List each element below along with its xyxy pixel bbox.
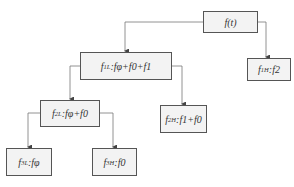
arrow-root-to-f1H	[257, 22, 266, 57]
arrow-f1L-to-f2H	[172, 66, 182, 104]
node-f3H-sub: 3H	[106, 159, 114, 166]
node-f1L-sub: 1L	[104, 63, 111, 70]
node-root: f(t)	[203, 11, 258, 33]
node-f3L-rest: :fφ	[28, 157, 40, 168]
arrow-f2L-to-f3H	[100, 113, 113, 147]
node-f1H-sub: 1H	[261, 66, 269, 73]
node-f3L-sub: 3L	[21, 159, 28, 166]
figure-caption	[90, 181, 210, 187]
node-f2L-rest: :fφ+f0	[62, 108, 88, 119]
node-root-label: f(t)	[224, 17, 236, 28]
node-f2L: f2L:fφ+f0	[40, 100, 100, 127]
node-f1L: f1L:fφ+f0+f1	[80, 52, 172, 80]
node-f3L: f3L:fφ	[6, 148, 52, 176]
node-f3H-rest: :f0	[114, 157, 125, 168]
node-f1H: f1H:f2	[247, 58, 291, 81]
node-f1L-rest: :fφ+f0+f1	[110, 61, 151, 72]
node-f2L-sub: 2L	[55, 110, 62, 117]
node-f3H: f3H:f0	[92, 148, 137, 176]
arrow-f2L-to-f3L	[28, 113, 40, 147]
arrow-f1L-to-f2L	[70, 66, 80, 99]
node-f2H: f2H:f1+f0	[160, 105, 207, 133]
node-f2H-rest: :f1+f0	[176, 114, 202, 125]
node-f2H-sub: 2H	[168, 116, 176, 123]
node-f1H-rest: :f2	[269, 64, 280, 75]
